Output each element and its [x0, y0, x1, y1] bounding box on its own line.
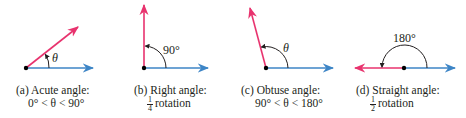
caption-a: (a) Acute angle: 0° < θ < 90°: [16, 84, 89, 110]
vertex-dot: [264, 66, 268, 70]
fraction: 12: [370, 96, 376, 113]
panel-a-acute-angle: θ: [24, 27, 93, 70]
caption-c-range: 90° < θ < 180°: [241, 97, 323, 110]
panel-c-obtuse-angle: θ: [250, 8, 333, 70]
panel-b-right-angle: 90°: [142, 5, 208, 70]
terminal-side-ray: [250, 8, 266, 68]
caption-d-rotation: 12rotation: [356, 96, 440, 113]
vertex-dot: [142, 66, 146, 70]
caption-c: (c) Obtuse angle: 90° < θ < 180°: [241, 84, 323, 110]
caption-b-rotation: 14rotation: [134, 96, 207, 113]
angle-label: 180°: [393, 31, 416, 45]
caption-a-range: 0° < θ < 90°: [16, 97, 89, 110]
caption-c-title: (c) Obtuse angle:: [241, 84, 320, 96]
angle-arc: [382, 45, 427, 68]
angle-arc: [46, 55, 50, 69]
vertex-dot: [24, 66, 28, 70]
caption-d-title: (d) Straight angle:: [356, 84, 440, 96]
caption-a-title: (a) Acute angle:: [16, 84, 89, 96]
panel-d-straight-angle: 180°: [355, 31, 455, 70]
angle-label: 90°: [163, 43, 180, 57]
fraction: 14: [147, 96, 153, 113]
caption-b-title: (b) Right angle:: [134, 84, 207, 96]
caption-d: (d) Straight angle: 12rotation: [356, 84, 440, 113]
caption-b: (b) Right angle: 14rotation: [134, 84, 207, 113]
angle-label: θ: [52, 51, 58, 65]
vertex-dot: [402, 66, 406, 70]
angle-label: θ: [283, 41, 289, 55]
